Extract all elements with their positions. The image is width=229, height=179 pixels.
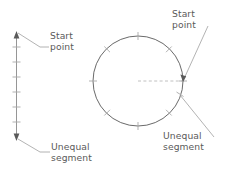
line-start-point-label-line2: point <box>50 41 74 52</box>
line-start-arrow-icon <box>14 31 20 39</box>
circle-unequal-label-line2: segment <box>163 141 204 152</box>
diagram-canvas: Start point Unequal segment <box>0 0 229 179</box>
technical-drawing: Start point Unequal segment <box>0 0 229 179</box>
line-start-leader <box>18 33 49 47</box>
line-start-point-label-line1: Start <box>50 30 73 41</box>
circle-tick <box>104 47 110 53</box>
circle-unequal-label-line1: Unequal <box>163 130 202 141</box>
circle-start-point-label-line1: Start <box>172 8 195 19</box>
circle-tick <box>104 110 110 116</box>
circle-figure: Start point Unequal segment <box>89 8 214 152</box>
line-end-arrow-icon <box>14 133 20 141</box>
line-unequal-label-line1: Unequal <box>51 141 90 152</box>
circle-start-point-label-line2: point <box>172 19 196 30</box>
circle-tick <box>166 47 172 53</box>
circle-start-leader <box>183 26 208 81</box>
line-unequal-label-line2: segment <box>51 152 92 163</box>
circle-tick <box>166 110 172 116</box>
line-unequal-leader <box>18 139 50 152</box>
vertical-line-figure: Start point Unequal segment <box>13 30 93 163</box>
